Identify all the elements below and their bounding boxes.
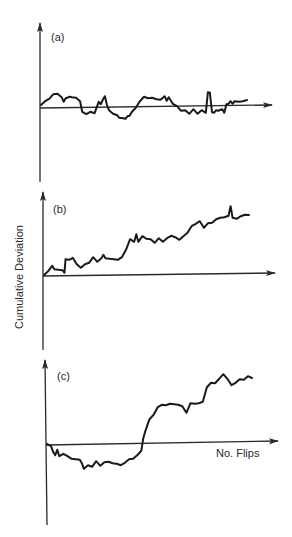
- panel-a-label: (a): [51, 31, 64, 43]
- panel-b-x-axis: [43, 273, 275, 276]
- y-axis-label: Cumulative Deviation: [13, 225, 25, 329]
- panel-a-x-axis: [40, 105, 272, 108]
- panel-a: (a): [40, 23, 272, 182]
- panel-b-trace: [44, 206, 249, 275]
- panel-c-y-axis: [45, 360, 47, 525]
- panel-c: (c) No. Flips: [45, 360, 278, 525]
- x-axis-label: No. Flips: [216, 447, 260, 459]
- figure: (a) (b) (c) No. Flips Cumulative Deviati…: [0, 0, 292, 537]
- panel-c-x-axis: [46, 441, 278, 445]
- panel-b-label: (b): [53, 203, 66, 215]
- panel-c-label: (c): [57, 370, 70, 382]
- panel-b: (b): [43, 192, 275, 350]
